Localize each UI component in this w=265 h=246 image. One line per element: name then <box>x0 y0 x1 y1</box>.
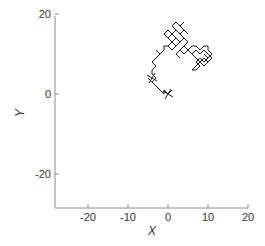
random-walk-path <box>148 22 212 94</box>
x-tick-label: 0 <box>165 211 171 223</box>
y-tick-label: 0 <box>45 88 51 100</box>
x-axis-title: X <box>147 224 157 238</box>
y-tick-label: 20 <box>39 8 51 20</box>
plot-area <box>147 22 212 99</box>
x-axis: -20-1001020 <box>55 204 254 223</box>
x-tick-label: 10 <box>202 211 214 223</box>
x-tick-label: 20 <box>242 211 254 223</box>
random-walk-chart: -20020 -20-1001020 X Y <box>0 0 265 246</box>
y-tick-label: -20 <box>35 168 51 180</box>
y-axis-title: Y <box>13 108 27 117</box>
x-tick-label: -20 <box>80 211 96 223</box>
y-axis: -20020 <box>35 8 59 208</box>
x-tick-label: -10 <box>120 211 136 223</box>
